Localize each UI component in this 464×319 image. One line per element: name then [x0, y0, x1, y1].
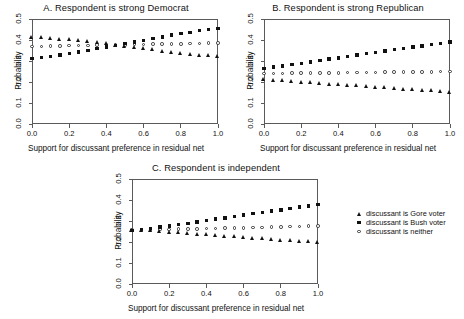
- panel-c-y-tick-label: 0.3: [114, 212, 123, 230]
- panel-b-y-tick-label: 0.2: [246, 73, 255, 91]
- square-marker-icon: [352, 221, 366, 224]
- data-point-triangle: [29, 35, 33, 39]
- panel-b-x-tick: [375, 124, 376, 128]
- data-point-triangle: [327, 82, 331, 86]
- figure-root: A. Respondent is strong Democrat Probabi…: [0, 0, 464, 319]
- data-point-triangle: [104, 41, 108, 45]
- legend-label-gore: discussant is Gore voter: [366, 209, 445, 218]
- data-point-triangle: [132, 45, 136, 49]
- panel-b-y-tick: [261, 103, 265, 104]
- panel-b-x-tick: [301, 124, 302, 128]
- panel-a-x-tick: [106, 124, 107, 128]
- data-point-square: [242, 213, 245, 216]
- panel-a: A. Respondent is strong Democrat Probabi…: [0, 0, 232, 160]
- panel-c-x-tick: [318, 284, 319, 288]
- data-point-triangle: [85, 39, 89, 43]
- data-point-square: [420, 44, 423, 47]
- data-point-triangle: [95, 40, 99, 44]
- data-point-triangle: [250, 236, 254, 240]
- data-point-circle: [355, 71, 359, 75]
- data-point-circle: [337, 71, 341, 75]
- data-point-triangle: [213, 233, 217, 237]
- data-point-square: [214, 217, 217, 220]
- data-point-triangle: [169, 50, 173, 54]
- data-point-circle: [411, 70, 415, 74]
- panel-b-x-tick-label: 0.4: [324, 129, 352, 138]
- legend-label-bush: discussant is Bush voter: [366, 218, 446, 227]
- panel-a-x-tick-label: 0.2: [55, 129, 83, 138]
- panel-a-x-tick: [218, 124, 219, 128]
- data-point-circle: [402, 70, 406, 74]
- panel-b-x-tick-label: 0.8: [399, 129, 427, 138]
- data-point-triangle: [167, 230, 171, 234]
- panel-a-y-tick-label: 0.4: [14, 31, 23, 49]
- data-point-triangle: [215, 54, 219, 58]
- data-point-triangle: [57, 37, 61, 41]
- data-point-triangle: [289, 79, 293, 83]
- data-point-circle: [383, 70, 387, 74]
- legend-item-gore: discussant is Gore voter: [352, 209, 446, 218]
- data-point-circle: [179, 42, 183, 46]
- data-point-triangle: [39, 35, 43, 39]
- data-point-circle: [170, 42, 174, 46]
- panel-c-y-tick-label: 0.0: [114, 275, 123, 293]
- panel-a-y-tick: [29, 19, 33, 20]
- data-point-triangle: [260, 236, 264, 240]
- data-point-square: [327, 57, 330, 60]
- panel-a-x-axis-label: Support for discussant preference in res…: [0, 144, 232, 153]
- panel-a-y-tick-label: 0.0: [14, 115, 23, 133]
- data-point-triangle: [308, 80, 312, 84]
- data-point-square: [177, 223, 180, 226]
- data-point-triangle: [278, 238, 282, 242]
- data-point-triangle: [392, 86, 396, 90]
- panel-c-y-tick: [129, 200, 133, 201]
- data-point-triangle: [336, 82, 340, 86]
- panel-b-y-axis-label: Probability: [246, 41, 255, 101]
- panel-a-y-axis-label: Probability: [14, 41, 23, 101]
- data-point-circle: [86, 44, 90, 48]
- data-point-square: [290, 63, 293, 66]
- data-point-triangle: [429, 88, 433, 92]
- data-point-triangle: [447, 90, 451, 94]
- panel-a-x-tick-label: 0.6: [130, 129, 158, 138]
- data-point-triangle: [157, 229, 161, 233]
- data-point-square: [207, 28, 210, 31]
- data-point-square: [40, 56, 43, 59]
- data-point-triangle: [141, 46, 145, 50]
- data-point-triangle: [315, 240, 319, 244]
- panel-b-y-tick: [261, 61, 265, 62]
- data-point-square: [307, 204, 310, 207]
- data-point-square: [430, 43, 433, 46]
- data-point-square: [316, 203, 319, 206]
- data-point-square: [205, 219, 208, 222]
- data-point-square: [262, 67, 265, 70]
- data-point-triangle: [195, 232, 199, 236]
- data-point-square: [300, 62, 303, 65]
- data-point-square: [49, 55, 52, 58]
- data-point-square: [195, 220, 198, 223]
- data-point-circle: [40, 45, 44, 49]
- data-point-circle: [251, 226, 255, 230]
- data-point-triangle: [67, 37, 71, 41]
- panel-c-x-tick: [169, 284, 170, 288]
- panel-c-title: C. Respondent is independent: [100, 163, 332, 173]
- data-point-triangle: [176, 230, 180, 234]
- data-point-circle: [316, 224, 320, 228]
- panel-c-x-tick-label: 0.6: [230, 289, 258, 298]
- panel-b-y-tick-label: 0.4: [246, 31, 255, 49]
- data-point-triangle: [354, 83, 358, 87]
- panel-c-y-tick: [129, 242, 133, 243]
- panel-c-y-axis-label: Probability: [114, 201, 123, 261]
- panel-a-y-tick: [29, 40, 33, 41]
- panel-b-y-tick: [261, 40, 265, 41]
- data-point-square: [142, 39, 145, 42]
- data-point-triangle: [206, 53, 210, 57]
- data-point-triangle: [373, 85, 377, 89]
- data-point-square: [402, 47, 405, 50]
- panel-a-title: A. Respondent is strong Democrat: [0, 3, 232, 13]
- circle-marker-icon: [352, 230, 366, 233]
- data-point-square: [188, 31, 191, 34]
- data-point-square: [223, 216, 226, 219]
- triangle-marker-icon: [352, 212, 366, 216]
- data-point-circle: [260, 226, 264, 230]
